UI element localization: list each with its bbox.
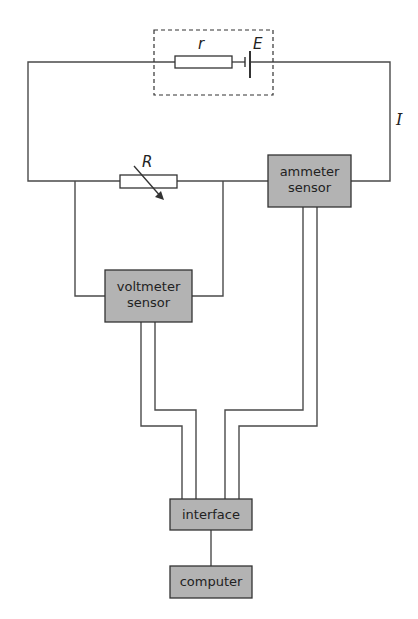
- top-left-wire: [28, 62, 175, 181]
- symbol-r: r: [198, 35, 204, 53]
- computer-label: computer: [170, 574, 252, 590]
- ammeter-label-line2: sensor: [268, 180, 351, 196]
- voltmeter-label-line1: voltmeter: [105, 279, 192, 295]
- symbol-R: R: [142, 153, 152, 171]
- voltmeter-cable-inner: [155, 322, 196, 499]
- internal-resistor: [175, 56, 232, 68]
- voltmeter-left-lead: [75, 181, 105, 296]
- voltmeter-right-lead: [192, 181, 223, 296]
- circuit-diagram: [0, 0, 418, 619]
- symbol-I: I: [396, 110, 402, 129]
- ammeter-label-line1: ammeter: [268, 164, 351, 180]
- variable-resistor: [120, 175, 177, 188]
- voltmeter-label-line2: sensor: [105, 295, 192, 311]
- ammeter-cable-inner: [225, 207, 303, 499]
- symbol-E: E: [253, 35, 262, 53]
- ammeter-sensor-label: ammeter sensor: [268, 164, 351, 196]
- voltmeter-sensor-label: voltmeter sensor: [105, 279, 192, 311]
- ammeter-cable-outer: [239, 207, 317, 499]
- interface-label: interface: [170, 507, 252, 523]
